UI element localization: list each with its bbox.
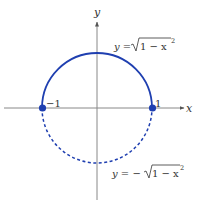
unit-circle-diagram: y x −1 1 y = 1 − x 2 y = − 1 − x 2 [0,0,197,206]
svg-text:2: 2 [171,37,175,45]
y-axis-label: y [93,6,101,19]
svg-text:y = −: y = − [111,168,141,179]
svg-text:1 − x: 1 − x [152,168,179,179]
tick-pos-one: 1 [155,98,161,109]
svg-text:1 − x: 1 − x [140,41,167,52]
upper-curve-label: y = 1 − x 2 [113,37,175,52]
svg-text:y =: y = [113,41,131,52]
svg-text:2: 2 [180,164,184,172]
lower-curve-label: y = − 1 − x 2 [111,164,184,179]
tick-neg-one: −1 [46,98,61,109]
x-axis-label: x [186,102,193,115]
